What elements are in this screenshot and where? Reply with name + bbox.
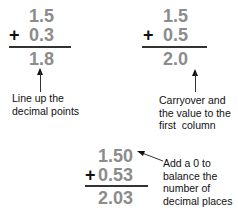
addend-top: 1.5 — [29, 7, 54, 25]
addend-top: 1.5 — [163, 7, 188, 25]
arrow-shaft — [40, 72, 41, 92]
sum-result: 2.03 — [98, 189, 133, 207]
addend-top: 1.50 — [98, 147, 133, 165]
sum-result: 2.0 — [163, 50, 188, 68]
plus-sign: + — [85, 166, 96, 184]
note-carryover: Carryover and the value to the first col… — [159, 94, 231, 132]
note-line-up: Line up the decimal points — [12, 92, 79, 117]
sum-rule — [85, 185, 148, 187]
note-add-zero: Add a 0 to balance the number of decimal… — [163, 157, 232, 207]
sum-rule — [9, 46, 71, 48]
arrow-shaft — [195, 73, 196, 92]
addend-bottom: 0.5 — [163, 26, 188, 44]
sum-rule — [142, 46, 207, 48]
plus-sign: + — [143, 26, 154, 44]
plus-sign: + — [9, 26, 20, 44]
addend-bottom: 0.53 — [98, 166, 133, 184]
sum-result: 1.8 — [29, 50, 54, 68]
addend-bottom: 0.3 — [29, 26, 54, 44]
arrow-left-icon — [136, 148, 166, 168]
